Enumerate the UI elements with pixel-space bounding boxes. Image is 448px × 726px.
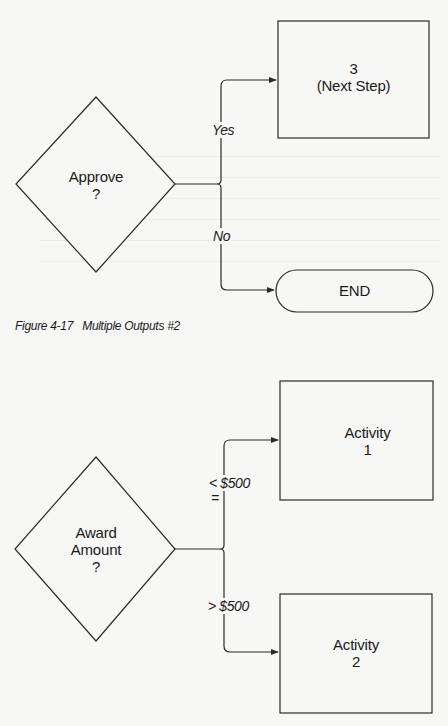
activity-1-number: 1 [300, 441, 435, 458]
approve-decision-label: Approve ? [46, 168, 146, 202]
le-500-edge-label: < $500 [208, 475, 251, 491]
award-amount-label: Award Amount ? [46, 524, 146, 575]
activity-1-text: Activity [300, 424, 435, 441]
approve-question-mark: ? [46, 185, 146, 202]
yes-edge-label: Yes [211, 122, 235, 138]
end-label: END [276, 282, 433, 299]
figure-caption: Figure 4-17 Multiple Outputs #2 [15, 319, 180, 333]
page: Approve ? Yes No 3 (Next Step) END Figur… [0, 0, 448, 726]
flowchart-canvas [0, 0, 448, 726]
figure-number: Figure 4-17 [15, 319, 73, 333]
award-question-mark: ? [46, 558, 146, 575]
amount-text: Amount [46, 541, 146, 558]
award-text: Award [46, 524, 146, 541]
activity-2-text: Activity [280, 636, 432, 653]
le-500-arrow [224, 440, 278, 545]
approve-split-brace [217, 180, 221, 188]
activity-1-label: Activity 1 [300, 424, 435, 458]
next-step-number: 3 [278, 60, 429, 77]
figure-title: Multiple Outputs #2 [82, 319, 180, 333]
approve-text: Approve [46, 168, 146, 185]
next-step-text: (Next Step) [278, 77, 429, 94]
no-edge-label: No [212, 228, 231, 244]
le-500-equals-mark: = [210, 490, 220, 506]
activity-2-number: 2 [280, 653, 432, 670]
gt-500-edge-label: > $500 [207, 598, 250, 614]
award-split-brace [220, 545, 224, 553]
next-step-label: 3 (Next Step) [278, 60, 429, 94]
activity-2-label: Activity 2 [280, 636, 432, 670]
